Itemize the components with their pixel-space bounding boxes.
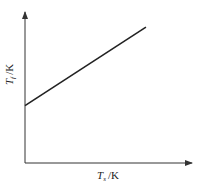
data-line [25, 27, 146, 106]
y-axis-subscript: f [9, 77, 17, 79]
x-axis-subscript: s [103, 175, 106, 183]
y-axis-symbol: T [3, 79, 15, 85]
x-axis-label: Ts /K [97, 169, 119, 183]
x-axis-unit: /K [108, 169, 119, 181]
chart-canvas [0, 0, 203, 188]
y-axis-unit: /K [3, 64, 15, 75]
y-axis-label: Tf /K [3, 64, 17, 85]
